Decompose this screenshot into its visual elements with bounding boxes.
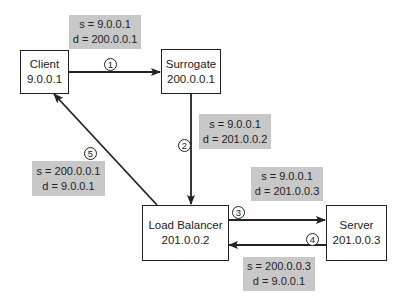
packet-label-step-1: s = 9.0.0.1 d = 200.0.0.1 — [69, 15, 141, 49]
destination-address: d = 9.0.0.1 — [253, 274, 305, 289]
node-load-balancer: Load Balancer 201.0.0.2 — [142, 205, 229, 261]
node-name: Load Balancer — [148, 218, 222, 233]
node-ip: 201.0.0.2 — [162, 233, 210, 248]
destination-address: d = 201.0.0.2 — [203, 132, 268, 147]
step-number-5: 5 — [84, 147, 97, 160]
destination-address: d = 9.0.0.1 — [42, 179, 94, 194]
step-number-4: 4 — [306, 233, 319, 246]
step-number-3: 3 — [232, 206, 245, 219]
source-address: s = 200.0.0.1 — [37, 164, 101, 179]
destination-address: d = 200.0.0.1 — [73, 32, 138, 47]
node-client: Client 9.0.0.1 — [20, 50, 69, 94]
destination-address: d = 201.0.0.3 — [255, 184, 320, 199]
node-ip: 200.0.0.1 — [167, 72, 215, 87]
node-surrogate: Surrogate 200.0.0.1 — [161, 49, 221, 94]
node-name: Server — [340, 218, 374, 233]
source-address: s = 9.0.0.1 — [261, 169, 313, 184]
node-server: Server 201.0.0.3 — [326, 205, 387, 261]
node-name: Client — [30, 57, 59, 72]
step-number-2: 2 — [178, 139, 191, 152]
node-name: Surrogate — [166, 57, 217, 72]
packet-label-step-2: s = 9.0.0.1 d = 201.0.0.2 — [199, 114, 271, 149]
packet-label-step-3: s = 9.0.0.1 d = 201.0.0.3 — [251, 167, 323, 201]
step-number-1: 1 — [104, 58, 117, 71]
source-address: s = 200.0.0.3 — [247, 259, 311, 274]
packet-label-step-5: s = 200.0.0.1 d = 9.0.0.1 — [32, 161, 105, 196]
node-ip: 9.0.0.1 — [27, 72, 62, 87]
source-address: s = 9.0.0.1 — [79, 17, 131, 32]
node-ip: 201.0.0.3 — [333, 233, 381, 248]
source-address: s = 9.0.0.1 — [209, 117, 261, 132]
packet-label-step-4: s = 200.0.0.3 d = 9.0.0.1 — [243, 257, 315, 291]
